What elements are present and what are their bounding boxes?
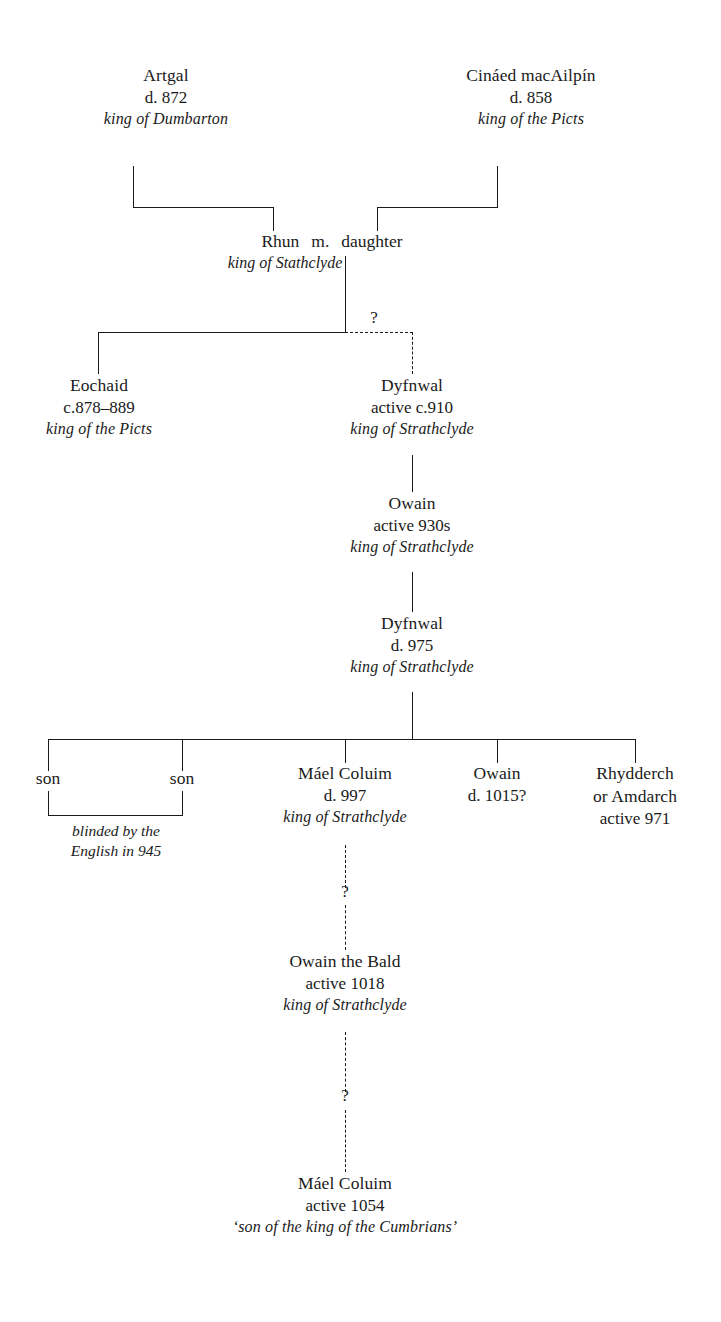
- node-owain-1015-dates: d. 1015?: [468, 785, 527, 807]
- node-rhydderch-alt-name: or Amdarch: [593, 785, 677, 808]
- node-owain-the-bald-description: king of Strathclyde: [283, 995, 407, 1016]
- node-rhun-description: king of Stathclyde: [214, 253, 355, 274]
- node-mael-coluim-1054-description: ‘son of the king of the Cumbrians’: [233, 1217, 458, 1238]
- node-eochaid-description: king of the Picts: [46, 419, 152, 440]
- node-dyfnwal-975-description: king of Strathclyde: [350, 657, 474, 678]
- connector-cinaed-across: [377, 207, 498, 208]
- node-eochaid: Eochaid c.878–889 king of the Picts: [46, 374, 152, 440]
- node-owain-930s: Owain active 930s king of Strathclyde: [350, 492, 474, 558]
- connector-sons-bracket-right: [182, 791, 183, 816]
- node-rhydderch-or-amdarch: Rhydderch or Amdarch active 971: [593, 762, 677, 830]
- node-owain-930s-description: king of Strathclyde: [350, 537, 474, 558]
- connector-owain930-to-dyfnwal975: [412, 572, 413, 612]
- node-dyfnwal-910-dates: active c.910: [350, 397, 474, 419]
- connector-artgal-down: [133, 166, 134, 208]
- connector-eochaid-down: [98, 332, 99, 374]
- node-rhun-marriage: Rhunm.daughter king of Stathclyde: [261, 230, 402, 274]
- connector-eochaid-across: [98, 332, 346, 333]
- node-owain-the-bald-name: Owain the Bald: [283, 950, 407, 973]
- caption-sons-blinded-line2: English in 945: [71, 841, 161, 861]
- connector-owainbald-to-maelcoluim1054-lower: [345, 1110, 346, 1172]
- connector-son1-down: [48, 739, 49, 771]
- connector-son2-down: [182, 739, 183, 771]
- node-owain-the-bald-dates: active 1018: [283, 973, 407, 995]
- node-mael-coluim-1054-dates: active 1054: [233, 1195, 458, 1217]
- node-owain-930s-dates: active 930s: [350, 515, 474, 537]
- node-owain-the-bald: Owain the Bald active 1018 king of Strat…: [283, 950, 407, 1016]
- uncertainty-marker-rhun-dyfnwal: ?: [370, 308, 378, 328]
- caption-sons-blinded-line1: blinded by the: [71, 821, 161, 841]
- node-cinaed-macailpin-name: Cináed macAilpín: [466, 64, 595, 87]
- node-mael-coluim-1054-name: Máel Coluim: [233, 1172, 458, 1195]
- node-mael-coluim-997-dates: d. 997: [283, 785, 407, 807]
- node-eochaid-name: Eochaid: [46, 374, 152, 397]
- node-owain-1015: Owain d. 1015?: [468, 762, 527, 807]
- node-dyfnwal-975-dates: d. 975: [350, 635, 474, 657]
- node-dyfnwal-910-description: king of Strathclyde: [350, 419, 474, 440]
- connector-rhydderch-down: [635, 739, 636, 763]
- connector-siblings-bar: [48, 739, 636, 740]
- connector-artgal-across: [133, 207, 274, 208]
- connector-dyfnwal910-across-uncertain: [345, 332, 413, 333]
- node-owain-1015-name: Owain: [468, 762, 527, 785]
- node-rhydderch-dates: active 971: [593, 808, 677, 830]
- connector-sons-bracket-bottom: [48, 815, 183, 816]
- connector-sons-bracket-left: [48, 791, 49, 816]
- connector-dyfnwal910-to-owain930: [412, 455, 413, 492]
- connector-dyfnwal910-down-uncertain: [412, 332, 413, 374]
- connector-maelcoluim997-to-owainbald-lower: [345, 905, 346, 950]
- caption-sons-blinded: blinded by the English in 945: [71, 821, 161, 862]
- node-daughter-label: daughter: [341, 230, 402, 253]
- node-owain-930s-name: Owain: [350, 492, 474, 515]
- connector-maelcoluim997-down: [345, 739, 346, 763]
- node-dyfnwal-975-name: Dyfnwal: [350, 612, 474, 635]
- connector-owain1015-down: [497, 739, 498, 763]
- node-artgal-dates: d. 872: [104, 87, 228, 109]
- node-dyfnwal-910-name: Dyfnwal: [350, 374, 474, 397]
- node-rhun-name: Rhun: [261, 230, 299, 253]
- connector-owainbald-to-maelcoluim1054-upper: [345, 1032, 346, 1092]
- node-eochaid-dates: c.878–889: [46, 397, 152, 419]
- node-artgal: Artgal d. 872 king of Dumbarton: [104, 64, 228, 130]
- node-artgal-name: Artgal: [104, 64, 228, 87]
- connector-dyfnwal975-down: [412, 692, 413, 740]
- node-rhydderch-name: Rhydderch: [593, 762, 677, 785]
- node-son-2: son: [170, 768, 194, 789]
- node-cinaed-macailpin-dates: d. 858: [466, 87, 595, 109]
- family-tree-diagram: Artgal d. 872 king of Dumbarton Cináed m…: [0, 0, 721, 1322]
- node-son-1: son: [36, 768, 60, 789]
- uncertainty-marker-maelcoluim-owainbald: ?: [341, 882, 349, 902]
- node-cinaed-macailpin: Cináed macAilpín d. 858 king of the Pict…: [466, 64, 595, 130]
- node-dyfnwal-975: Dyfnwal d. 975 king of Strathclyde: [350, 612, 474, 678]
- node-mael-coluim-997: Máel Coluim d. 997 king of Strathclyde: [283, 762, 407, 828]
- node-mael-coluim-997-description: king of Strathclyde: [283, 807, 407, 828]
- marriage-symbol: m.: [311, 230, 329, 253]
- connector-rhun-up: [273, 207, 274, 231]
- connector-daughter-up: [377, 207, 378, 231]
- node-cinaed-macailpin-description: king of the Picts: [466, 109, 595, 130]
- node-mael-coluim-1054: Máel Coluim active 1054 ‘son of the king…: [233, 1172, 458, 1238]
- connector-cinaed-down: [497, 166, 498, 208]
- node-dyfnwal-910: Dyfnwal active c.910 king of Strathclyde: [350, 374, 474, 440]
- node-artgal-description: king of Dumbarton: [104, 109, 228, 130]
- connector-union-down: [345, 256, 346, 333]
- uncertainty-marker-owainbald-maelcoluim: ?: [341, 1086, 349, 1106]
- node-mael-coluim-997-name: Máel Coluim: [283, 762, 407, 785]
